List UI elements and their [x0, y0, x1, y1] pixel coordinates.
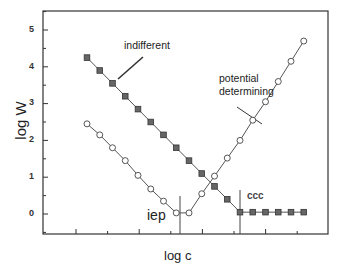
circle-marker [84, 121, 90, 127]
square-marker [224, 196, 230, 202]
y-tick-label: 0 [20, 208, 34, 218]
circle-marker [275, 79, 281, 85]
circle-marker [97, 132, 103, 138]
circle-marker [301, 38, 307, 44]
x-axis-ticks [76, 229, 297, 234]
square-marker [97, 68, 103, 74]
square-marker [122, 93, 128, 99]
square-marker [148, 119, 154, 125]
indifferent-arrow [118, 57, 143, 79]
circle-marker [250, 117, 256, 123]
potential-arrow [237, 107, 262, 124]
square-marker [263, 209, 269, 215]
square-marker [275, 209, 281, 215]
circle-marker [161, 198, 167, 204]
series-markers [84, 38, 307, 216]
series-lines [87, 41, 304, 213]
annotation-determining: determining [219, 85, 274, 97]
square-marker [135, 106, 141, 112]
circle-marker [212, 173, 218, 179]
square-marker [199, 171, 205, 177]
y-tick-label: 2 [20, 134, 34, 144]
circle-marker [148, 186, 154, 192]
square-marker [301, 209, 307, 215]
circle-marker [186, 210, 192, 216]
circle-marker [173, 210, 179, 216]
circle-marker [199, 191, 205, 197]
y-tick-label: 3 [20, 97, 34, 107]
square-marker [110, 81, 116, 87]
square-marker [84, 55, 90, 61]
potential-determining-line [87, 41, 304, 213]
y-tick-label: 5 [20, 24, 34, 34]
circle-marker [122, 158, 128, 164]
annotation-potential: potential [219, 72, 259, 84]
circle-marker [288, 58, 294, 64]
annotation-ccc: ccc [247, 190, 264, 201]
indifferent-line [87, 58, 304, 213]
y-axis-ticks [43, 12, 48, 233]
square-marker [288, 209, 294, 215]
circle-marker [237, 137, 243, 143]
square-marker [237, 209, 243, 215]
square-marker [173, 145, 179, 151]
y-tick-label: 4 [20, 61, 34, 71]
square-marker [186, 158, 192, 164]
circle-marker [135, 172, 141, 178]
y-tick-label: 1 [20, 171, 34, 181]
square-marker [161, 132, 167, 138]
circle-marker [224, 155, 230, 161]
annotation-indifferent: indifferent [124, 39, 170, 51]
square-marker [250, 209, 256, 215]
circle-marker [110, 145, 116, 151]
annotation-iep: iep [147, 207, 166, 223]
square-marker [212, 184, 218, 190]
circle-marker [263, 99, 269, 105]
x-axis-label: log c [164, 248, 191, 263]
